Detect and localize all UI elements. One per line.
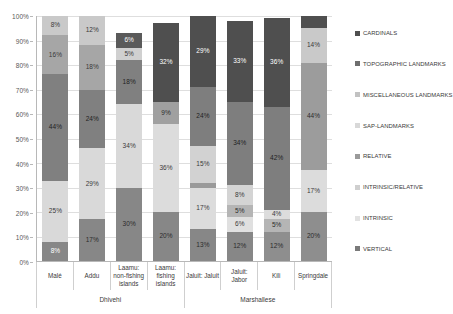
bar-segment[interactable]: 14% — [301, 28, 327, 62]
legend-swatch-icon — [355, 31, 360, 36]
bar-segment[interactable]: 8% — [42, 16, 68, 35]
category-label: Springdale — [295, 262, 332, 290]
bar-segment[interactable]: 18% — [116, 60, 142, 104]
bar-segment[interactable]: 20% — [153, 212, 179, 261]
bar-slot: 12%5%4%42%36% — [258, 16, 295, 261]
bar-segment-label: 30% — [123, 221, 136, 228]
legend-item[interactable]: INTRINSIC/RELATIVE — [355, 184, 449, 190]
bar-segment[interactable]: 6% — [227, 217, 253, 232]
category-label: Malé — [36, 262, 74, 290]
y-axis-tick-label: 30% — [16, 185, 29, 192]
bar-segment[interactable]: 29% — [190, 16, 216, 87]
bar-segment[interactable]: 13% — [190, 229, 216, 261]
stacked-bar[interactable]: 8%25%44%16%8% — [42, 16, 68, 261]
bar-segment-label: 12% — [233, 243, 246, 250]
bar-segment-label: 13% — [196, 242, 209, 249]
bar-segment[interactable]: 4% — [264, 210, 290, 220]
bar-segment[interactable]: 25% — [42, 181, 68, 242]
bar-segment-label: 15% — [196, 161, 209, 168]
legend: CARDINALSTOPOGRAPHIC LANDMARKSMISCELLANE… — [355, 16, 449, 262]
bar-segment[interactable]: 24% — [190, 87, 216, 146]
stacked-bar[interactable]: 12%5%4%42%36% — [264, 16, 290, 261]
y-axis-tick-label: 100% — [12, 13, 29, 20]
y-axis-tick-mark — [30, 65, 33, 66]
bar-segment[interactable]: 24% — [79, 90, 105, 149]
bar-segment-label: 4% — [272, 211, 282, 218]
bar-segment-label: 44% — [49, 124, 62, 131]
legend-item[interactable]: MISCELLANEOUS LANDMARKS — [355, 92, 449, 98]
group-label: Dhivehi — [36, 290, 185, 308]
bar-segment[interactable]: 8% — [227, 185, 253, 205]
y-axis-tick-label: 80% — [16, 62, 29, 69]
legend-label: CARDINALS — [363, 30, 397, 36]
bar-segment[interactable]: 18% — [79, 45, 105, 89]
bar-segment[interactable]: 32% — [153, 23, 179, 101]
bar-segment-label: 24% — [86, 116, 99, 123]
bar-slot: 8%25%44%16%8% — [37, 16, 74, 261]
legend-label: INTRINSIC/RELATIVE — [363, 184, 423, 190]
bar-segment[interactable]: 36% — [264, 18, 290, 106]
bar-segment[interactable]: 34% — [116, 104, 142, 187]
bar-segment[interactable]: 42% — [264, 107, 290, 210]
bar-segment[interactable]: 6% — [116, 33, 142, 48]
bar-segment-label: 34% — [123, 143, 136, 150]
legend-item[interactable]: CARDINALS — [355, 30, 449, 36]
bar-segment[interactable]: 8% — [42, 242, 68, 261]
y-axis-tick-label: 0% — [19, 259, 29, 266]
bar-segment[interactable]: 17% — [190, 188, 216, 230]
stacked-bar[interactable]: 30%34%18%5%6% — [116, 16, 142, 261]
y-axis-tick-label: 90% — [16, 37, 29, 44]
bar-segment[interactable]: 15% — [190, 146, 216, 183]
bar-segment-label: 18% — [123, 79, 136, 86]
y-axis-tick-mark — [30, 16, 33, 17]
bar-segment[interactable]: 12% — [227, 232, 253, 261]
bar-segment-label: 17% — [86, 237, 99, 244]
y-axis: 0%10%20%30%40%50%60%70%80%90%100% — [0, 16, 33, 262]
bar-segment[interactable] — [190, 183, 216, 188]
bar-segment-label: 12% — [270, 243, 283, 250]
bar-segment[interactable]: 30% — [116, 188, 142, 262]
bar-segment[interactable]: 33% — [227, 21, 253, 102]
bar-segment[interactable]: 5% — [264, 219, 290, 231]
y-axis-tick-label: 20% — [16, 209, 29, 216]
bar-segment[interactable]: 44% — [42, 74, 68, 181]
bar-slot: 12%6%5%8%34%33% — [221, 16, 258, 261]
bar-segment[interactable]: 29% — [79, 148, 105, 219]
bar-segment[interactable]: 9% — [153, 102, 179, 124]
stacked-bar[interactable]: 20%17%44%14% — [301, 16, 327, 261]
bar-segment[interactable]: 5% — [116, 48, 142, 60]
bar-segment-label: 12% — [86, 27, 99, 34]
legend-item[interactable]: TOPOGRAPHIC LANDMARKS — [355, 61, 449, 67]
stacked-bar[interactable]: 20%36%9%32% — [153, 16, 179, 261]
bar-segment[interactable]: 17% — [79, 219, 105, 261]
bar-segment[interactable] — [301, 16, 327, 28]
bar-segment[interactable]: 12% — [264, 232, 290, 261]
legend-item[interactable]: VERTICAL — [355, 246, 449, 252]
legend-label: TOPOGRAPHIC LANDMARKS — [363, 61, 446, 67]
stacked-bar[interactable]: 13%17%15%24%29% — [190, 16, 216, 261]
legend-label: VERTICAL — [363, 246, 392, 252]
bar-segment-label: 32% — [159, 59, 172, 66]
y-axis-tick-label: 10% — [16, 234, 29, 241]
bar-segment-label: 6% — [124, 37, 134, 44]
bar-segment-label: 20% — [307, 233, 320, 240]
bar-segment[interactable]: 34% — [227, 102, 253, 185]
bar-segment[interactable]: 5% — [227, 205, 253, 217]
y-axis-tick-label: 70% — [16, 86, 29, 93]
bar-segment[interactable]: 36% — [153, 124, 179, 212]
category-label: Laamu: non-fishing islands — [111, 262, 148, 290]
bar-segment[interactable]: 17% — [301, 170, 327, 212]
bar-segment[interactable]: 12% — [79, 16, 105, 45]
legend-item[interactable]: SAP-LANDMARKS — [355, 123, 449, 129]
bar-segment[interactable]: 20% — [301, 212, 327, 261]
category-label: Addu — [74, 262, 111, 290]
y-axis-tick-mark — [30, 41, 33, 42]
bar-segment[interactable]: 44% — [301, 63, 327, 171]
bar-segment[interactable]: 16% — [42, 35, 68, 74]
stacked-bar[interactable]: 17%29%24%18%12% — [79, 16, 105, 261]
bar-segment-label: 8% — [51, 248, 61, 255]
bar-slot: 30%34%18%5%6% — [111, 16, 148, 261]
legend-item[interactable]: INTRINSIC — [355, 215, 449, 221]
stacked-bar[interactable]: 12%6%5%8%34%33% — [227, 16, 253, 261]
legend-item[interactable]: RELATIVE — [355, 153, 449, 159]
